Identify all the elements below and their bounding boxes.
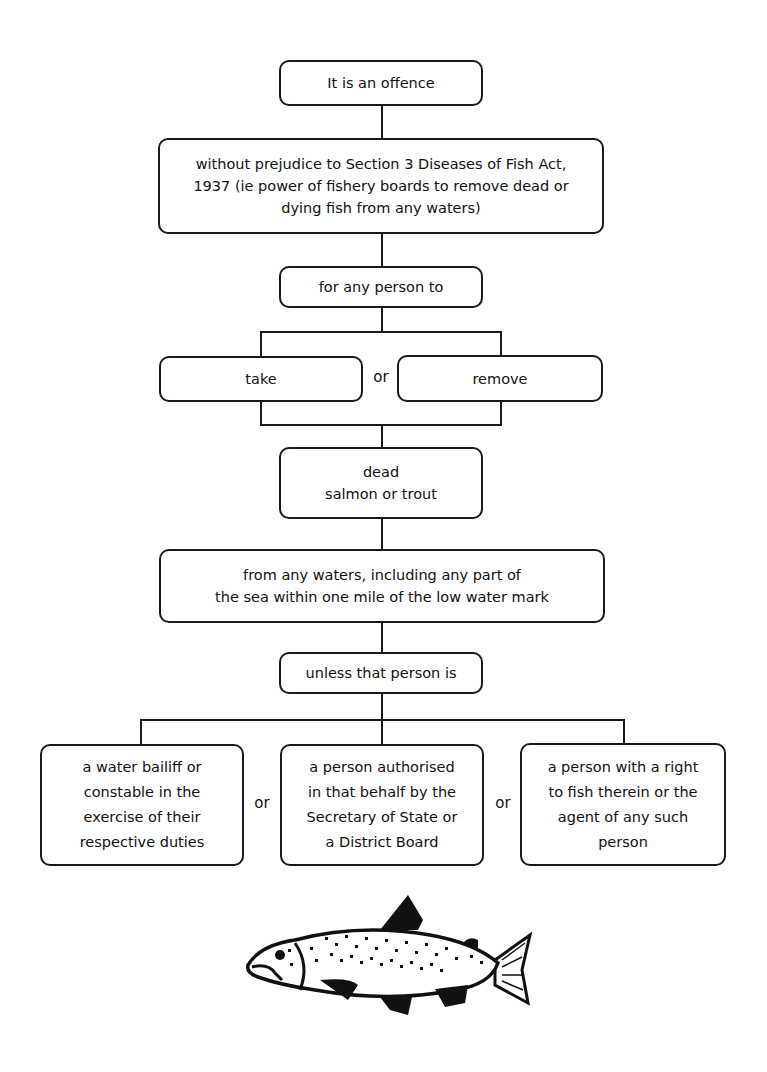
connector (381, 518, 383, 550)
node-text-line: in that behalf by the (308, 780, 456, 805)
node-text-line: a person with a right (548, 755, 699, 780)
connector (500, 331, 502, 356)
node-for-any-person: for any person to (279, 266, 483, 308)
node-exception-water-bailiff: a water bailiff or constable in the exer… (40, 744, 244, 866)
fish-icon (240, 885, 540, 1020)
node-text-line: person (598, 830, 648, 855)
connector (140, 719, 142, 745)
node-text-line: agent of any such (558, 805, 688, 830)
connector (500, 402, 502, 426)
connector (381, 424, 383, 448)
node-text-line: constable in the (84, 780, 201, 805)
node-unless: unless that person is (279, 652, 483, 694)
node-text: unless that person is (306, 662, 457, 684)
node-text: remove (472, 368, 527, 390)
connector (381, 622, 383, 655)
or-label: or (364, 368, 398, 386)
connector (381, 307, 383, 332)
node-text-line: a person authorised (309, 755, 454, 780)
node-without-prejudice: without prejudice to Section 3 Diseases … (158, 138, 604, 234)
node-text-line: to fish therein or the (548, 780, 697, 805)
node-text-line: a water bailiff or (82, 755, 201, 780)
node-text-line: respective duties (80, 830, 205, 855)
trout-illustration (240, 885, 540, 1024)
node-text-line: a District Board (326, 830, 439, 855)
node-text: without prejudice to Section 3 Diseases … (178, 153, 584, 219)
or-label: or (485, 794, 521, 812)
or-label: or (244, 794, 280, 812)
node-text-line: salmon or trout (325, 483, 437, 505)
node-text: It is an offence (327, 72, 434, 94)
node-text-line: Secretary of State or (307, 805, 458, 830)
node-dead-fish: dead salmon or trout (279, 447, 483, 519)
connector (260, 402, 262, 426)
branch-line (140, 719, 625, 721)
branch-line (260, 331, 502, 333)
connector (623, 719, 625, 745)
node-exception-right-to-fish: a person with a right to fish therein or… (520, 743, 726, 866)
connector (381, 233, 383, 267)
node-take: take (159, 356, 363, 402)
node-text: take (245, 368, 276, 390)
node-exception-authorised-person: a person authorised in that behalf by th… (280, 744, 484, 866)
connector (381, 106, 383, 138)
node-remove: remove (397, 355, 603, 402)
node-text-line: dead (363, 461, 399, 483)
node-text: for any person to (319, 276, 444, 298)
node-waters: from any waters, including any part of t… (159, 549, 605, 623)
node-text-line: exercise of their (84, 805, 201, 830)
connector (260, 331, 262, 356)
node-text-line: the sea within one mile of the low water… (215, 586, 549, 608)
node-offence: It is an offence (279, 60, 483, 106)
node-text-line: from any waters, including any part of (243, 564, 521, 586)
